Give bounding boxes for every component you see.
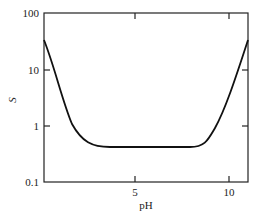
xtick-5: 5 (132, 186, 138, 198)
ytick-10: 10 (28, 64, 40, 76)
ytick-1: 1 (34, 120, 40, 132)
ytick-0.1: 0.1 (25, 176, 39, 188)
x-axis-label: pH (139, 199, 153, 211)
chart: 100 10 1 0.1 5 10 pH S (0, 0, 257, 218)
ytick-100: 100 (23, 7, 40, 19)
xtick-10: 10 (224, 186, 236, 198)
plot-frame (44, 13, 248, 182)
y-axis-label: S (6, 97, 18, 103)
data-line (44, 40, 248, 147)
